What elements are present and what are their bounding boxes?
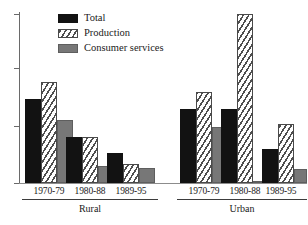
y-axis-tick — [14, 68, 20, 69]
group-label-rural: Rural — [22, 203, 158, 215]
bar-production — [82, 137, 98, 183]
legend-label-production: Production — [84, 27, 130, 39]
bar-total — [221, 109, 237, 183]
bar-production — [123, 164, 139, 183]
y-axis-tick — [14, 126, 20, 127]
bar-production — [278, 124, 294, 183]
legend-item-total: Total — [58, 11, 164, 25]
bar-chart: Total Production Consumer services 1970-… — [0, 0, 308, 225]
bar-production — [237, 14, 253, 183]
legend-item-consumer-services: Consumer services — [58, 41, 164, 55]
x-category-label: 1989-95 — [255, 186, 307, 197]
legend: Total Production Consumer services — [58, 11, 164, 56]
bar-consumer-services — [294, 169, 307, 183]
legend-item-production: Production — [58, 26, 164, 40]
y-axis — [19, 12, 20, 184]
bar-production — [41, 82, 57, 183]
bar-total — [107, 153, 123, 183]
group-underline-urban — [177, 199, 307, 200]
bar-consumer-services — [139, 168, 155, 183]
bar-production — [196, 92, 212, 183]
group-underline-rural — [22, 199, 158, 200]
bar-total — [66, 137, 82, 183]
group-label-urban: Urban — [177, 203, 307, 215]
total-swatch-icon — [58, 14, 78, 23]
bar-total — [180, 109, 196, 183]
y-axis-tick — [14, 14, 20, 15]
bar-total — [262, 149, 278, 183]
x-category-label: 1989-95 — [104, 186, 158, 197]
bar-total — [25, 99, 41, 184]
production-swatch-icon — [58, 29, 78, 38]
x-axis — [19, 183, 307, 184]
consumer-services-swatch-icon — [58, 44, 78, 53]
legend-label-total: Total — [84, 12, 105, 24]
legend-label-consumer-services: Consumer services — [84, 42, 164, 54]
